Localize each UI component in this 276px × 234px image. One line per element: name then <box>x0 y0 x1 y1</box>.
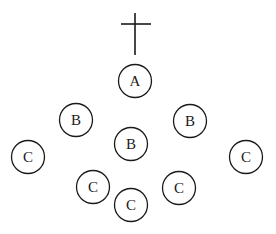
node-b-center: B <box>115 128 148 161</box>
node-label: B <box>126 136 136 152</box>
node-label: C <box>88 179 98 195</box>
node-label: C <box>174 180 184 196</box>
diagram-svg: A B B B C C C C <box>0 0 276 234</box>
node-a: A <box>119 65 152 98</box>
node-label: B <box>71 112 81 128</box>
node-b-left: B <box>60 104 93 137</box>
cross-icon <box>121 13 151 55</box>
node-b-right: B <box>174 105 207 138</box>
node-label: C <box>241 149 251 165</box>
node-c-far-left: C <box>12 141 45 174</box>
node-label: A <box>130 73 141 89</box>
diagram-canvas: A B B B C C C C <box>0 0 276 234</box>
node-c-far-right: C <box>230 141 263 174</box>
node-label: B <box>185 113 195 129</box>
node-c-lower-left: C <box>77 171 110 204</box>
node-c-lower-right: C <box>163 172 196 205</box>
node-label: C <box>126 197 136 213</box>
node-c-bottom: C <box>115 189 148 222</box>
node-label: C <box>23 149 33 165</box>
